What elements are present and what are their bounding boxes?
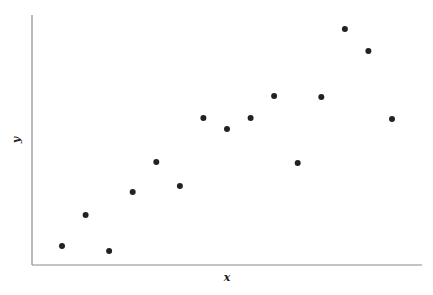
y-axis-label: y bbox=[10, 135, 23, 144]
data-point bbox=[200, 115, 206, 121]
data-point bbox=[130, 189, 136, 195]
data-point bbox=[224, 126, 230, 132]
data-point bbox=[318, 94, 324, 100]
data-point bbox=[295, 160, 301, 166]
data-point bbox=[271, 93, 277, 99]
data-point bbox=[177, 183, 183, 189]
data-point bbox=[59, 243, 65, 249]
data-point bbox=[365, 48, 371, 54]
x-axis-label: x bbox=[223, 271, 231, 284]
data-point bbox=[248, 115, 254, 121]
data-point bbox=[389, 116, 395, 122]
data-point bbox=[153, 159, 159, 165]
data-point bbox=[106, 248, 112, 254]
scatter-plot: x y bbox=[0, 0, 433, 295]
data-point bbox=[83, 212, 89, 218]
data-points bbox=[59, 26, 395, 254]
data-point bbox=[342, 26, 348, 32]
